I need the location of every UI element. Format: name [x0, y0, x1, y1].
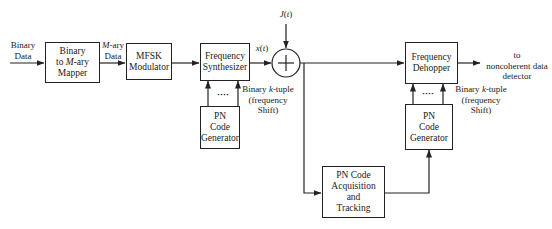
dots-right: ····: [418, 88, 438, 99]
ktuple-right-label: Binary k-tuple(frequencyShift): [452, 84, 510, 116]
pn-acquisition-tracking-block: PN Code Acquisition and Tracking: [322, 166, 385, 218]
mfsk-modulator-block: MFSK Modulator: [126, 43, 172, 80]
pn-code-generator-rx-block: PN Code Generator: [405, 104, 453, 150]
arrow-tap-to-acquisition: [304, 63, 321, 193]
x-t-label: x(t): [253, 43, 271, 54]
binary-to-mary-mapper-block: Binaryto M-aryMapper: [45, 42, 100, 83]
dots-left: ····: [213, 89, 233, 100]
mapper-text: Binaryto M-aryMapper: [56, 46, 89, 79]
frequency-synthesizer-block: Frequency Synthesizer: [200, 43, 250, 81]
mary-data-label: M-aryData: [100, 40, 126, 61]
pn-code-generator-tx-block: PN Code Generator: [200, 106, 240, 149]
binary-data-label: Binary Data: [6, 40, 40, 61]
frequency-dehopper-block: Frequency Dehopper: [405, 42, 458, 84]
arrow-acquisition-to-pn-rx: [385, 150, 429, 193]
output-label: to noncoherent data detector: [482, 50, 552, 82]
ktuple-left-label: Binary k-tuple(frequencyShift): [240, 84, 296, 116]
j-t-label: J(t): [276, 9, 296, 20]
